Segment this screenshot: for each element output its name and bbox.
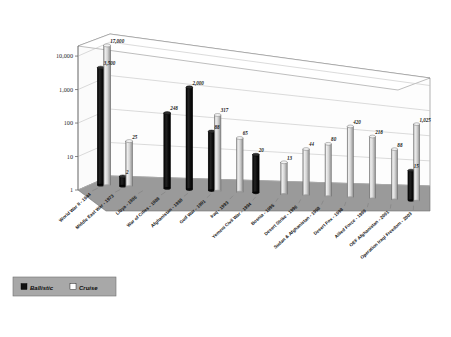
legend-label-ballistic: Ballistic: [30, 285, 54, 291]
legend-swatch-ballistic: [21, 284, 27, 290]
bar-cruise[interactable]: [347, 125, 353, 199]
value-label: 65: [243, 130, 249, 136]
value-label: 25: [131, 134, 138, 140]
value-label: 88: [215, 124, 221, 130]
legend-label-cruise: Cruise: [79, 285, 98, 291]
value-label: 2: [125, 169, 129, 175]
value-label: 13: [287, 155, 293, 161]
bar-ballistic[interactable]: [208, 130, 215, 192]
value-label: 420: [352, 119, 361, 125]
value-label: 17,000: [110, 38, 124, 44]
y-tick-label: 1: [70, 186, 73, 193]
bar-cruise[interactable]: [325, 142, 331, 197]
missile-usage-3d-bar-chart: 1101001,00010,000 3,50017,0002252482,000…: [0, 0, 451, 337]
bar-ballistic[interactable]: [253, 153, 260, 194]
value-label: 15: [414, 163, 420, 169]
bar-ballistic[interactable]: [408, 169, 414, 202]
bar-ballistic[interactable]: [119, 175, 126, 188]
y-tick-label: 1,000: [59, 86, 73, 93]
value-label: 248: [169, 105, 178, 111]
bar-cruise[interactable]: [391, 148, 397, 201]
value-label: 317: [220, 107, 229, 113]
y-tick-label: 10,000: [56, 52, 73, 59]
value-label: 88: [397, 142, 403, 148]
bar-ballistic[interactable]: [164, 111, 171, 189]
y-tick-label: 10: [67, 153, 73, 160]
bar-ballistic[interactable]: [186, 86, 193, 191]
chart-canvas: 1101001,00010,000 3,50017,0002252482,000…: [0, 0, 451, 337]
legend-swatch-cruise: [70, 284, 76, 290]
bar-cruise[interactable]: [281, 161, 288, 196]
bar-ballistic[interactable]: [97, 66, 104, 186]
y-tick-label: 100: [64, 119, 73, 126]
bar-cruise[interactable]: [126, 140, 133, 188]
bar-cruise[interactable]: [303, 148, 309, 197]
value-label: 1,025: [419, 117, 431, 123]
value-label: 20: [258, 147, 265, 153]
chart-legend[interactable]: Ballistic Cruise: [13, 277, 116, 296]
legend-background: [13, 277, 116, 296]
bar-cruise[interactable]: [369, 135, 375, 200]
value-label: 80: [331, 136, 337, 142]
value-label: 2,000: [191, 80, 204, 86]
value-label: 3,500: [103, 60, 116, 66]
value-label: 218: [374, 129, 383, 135]
value-label: 44: [308, 141, 315, 147]
bar-cruise[interactable]: [236, 137, 243, 194]
